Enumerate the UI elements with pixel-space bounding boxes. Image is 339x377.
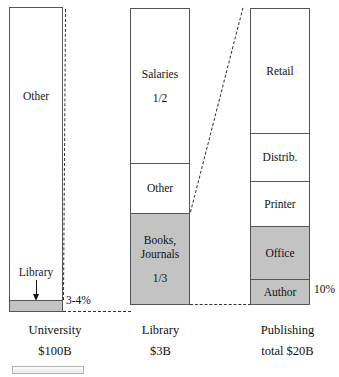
segment-library-salaries-label: Salaries xyxy=(142,67,178,81)
bar-university: Other Library xyxy=(9,7,63,312)
segment-library-books-fraction: 1/3 xyxy=(153,271,168,285)
caption-publishing-total: total $20B xyxy=(240,341,335,362)
segment-publishing-author-label: Author xyxy=(264,285,297,299)
library-callout: Library xyxy=(10,266,62,280)
segment-publishing-office-label: Office xyxy=(265,246,294,260)
segment-library-other: Other xyxy=(131,163,189,213)
horizontal-scrollbar[interactable] xyxy=(12,366,84,374)
segment-publishing-distrib: Distrib. xyxy=(251,133,309,181)
stacked-bar-flow-diagram: Other Library 3-4% Salaries 1/2 Other Bo… xyxy=(0,0,339,377)
segment-publishing-printer: Printer xyxy=(251,181,309,226)
annotation-publishing-author-percent: 10% xyxy=(314,283,335,295)
segment-library-books-journals: Books, Journals 1/3 xyxy=(131,213,189,304)
bar-library: Salaries 1/2 Other Books, Journals 1/3 xyxy=(130,8,190,305)
caption-university: University $100B xyxy=(0,320,110,361)
segment-library-salaries-fraction: 1/2 xyxy=(153,91,168,105)
library-callout-label: Library xyxy=(10,266,62,278)
segment-university-other xyxy=(10,8,62,300)
caption-university-name: University xyxy=(0,320,110,341)
segment-library-books-label-line2: Journals xyxy=(141,247,179,261)
connector-university-to-library-diagonal xyxy=(63,9,66,300)
annotation-university-library-percent: 3-4% xyxy=(66,294,91,306)
caption-publishing-name: Publishing xyxy=(240,320,335,341)
segment-library-books-label-line1: Books, xyxy=(144,233,176,247)
segment-publishing-office: Office xyxy=(251,226,309,279)
caption-library-total: $3B xyxy=(118,341,203,362)
connector-library-to-publishing-diagonal xyxy=(190,8,243,213)
segment-publishing-retail-label: Retail xyxy=(266,64,293,78)
segment-publishing-author: Author xyxy=(251,279,309,304)
segment-publishing-distrib-label: Distrib. xyxy=(263,150,298,164)
segment-library-salaries: Salaries 1/2 xyxy=(131,9,189,163)
bar-publishing: Retail Distrib. Printer Office Author xyxy=(250,8,310,305)
segment-publishing-printer-label: Printer xyxy=(264,197,295,211)
segment-university-other-label: Other xyxy=(10,90,62,102)
caption-publishing: Publishing total $20B xyxy=(240,320,335,361)
caption-library: Library $3B xyxy=(118,320,203,361)
segment-university-library xyxy=(10,300,62,311)
connector-university-to-library-baseline xyxy=(63,311,131,312)
segment-library-other-label: Other xyxy=(147,181,173,195)
connector-library-to-publishing-baseline xyxy=(190,304,251,305)
caption-library-name: Library xyxy=(118,320,203,341)
caption-university-total: $100B xyxy=(0,341,110,362)
segment-publishing-retail: Retail xyxy=(251,9,309,133)
